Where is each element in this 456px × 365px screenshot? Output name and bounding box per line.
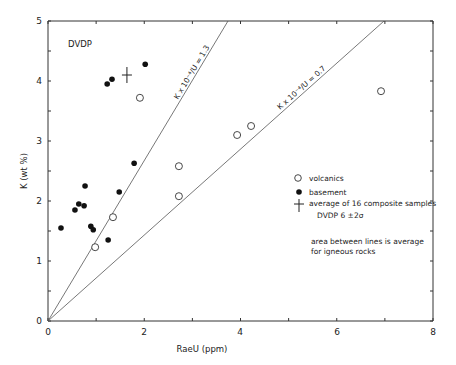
basement-point	[81, 203, 87, 209]
basement-point	[82, 183, 88, 189]
reference-lines	[48, 21, 384, 321]
legend: volcanics basement average of 16 composi…	[294, 174, 436, 220]
volcanics-point	[248, 123, 255, 130]
note-line-2: for igneous rocks	[311, 247, 376, 256]
basement-point	[109, 76, 115, 82]
legend-average: average of 16 composite samples	[309, 199, 436, 208]
average-cross-point	[122, 67, 132, 83]
basement-point	[72, 207, 78, 213]
basement-point	[116, 189, 122, 195]
basement-point	[76, 201, 82, 207]
open-circle-icon	[295, 175, 302, 182]
basement-point	[142, 61, 148, 67]
volcanics-point	[92, 244, 99, 251]
x-axis-label: RaeU (ppm)	[177, 344, 228, 354]
x-tick-labels: 0 2 4 6 8	[45, 327, 436, 337]
x-tick-label: 8	[430, 327, 436, 337]
volcanics-point	[175, 193, 182, 200]
basement-point	[131, 160, 137, 166]
volcanics-point	[109, 214, 116, 221]
ratio-line-0-7-label: K x 10⁻⁴/U = 0.7	[275, 64, 327, 112]
y-axis-label: K (wt %)	[19, 153, 29, 189]
x-tick-label: 0	[45, 327, 51, 337]
y-tick-label: 5	[36, 16, 42, 26]
y-tick-label: 4	[36, 76, 42, 86]
legend-sigma-note: DVDP 6 ±2σ	[317, 211, 364, 220]
x-tick-label: 2	[141, 327, 147, 337]
legend-volcanics: volcanics	[309, 174, 344, 183]
volcanics-point	[234, 132, 241, 139]
note-line-1: area between lines is average	[311, 237, 424, 246]
volcanics-point	[136, 94, 143, 101]
volcanics-point	[175, 163, 182, 170]
y-tick-label: 2	[36, 196, 42, 206]
scatter-chart: 0 2 4 6 8 0 1 2 3 4 5 RaeU (ppm) K (wt %…	[0, 0, 456, 365]
y-tick-labels: 0 1 2 3 4 5	[36, 16, 42, 326]
ratio-line-1-3	[48, 21, 228, 321]
x-tick-label: 6	[334, 327, 340, 337]
y-tick-label: 0	[36, 316, 42, 326]
plot-frame	[48, 21, 433, 321]
filled-circle-icon	[296, 189, 302, 195]
x-tick-label: 4	[237, 327, 243, 337]
basement-point	[58, 225, 64, 231]
basement-point	[105, 237, 111, 243]
basement-point	[90, 227, 96, 233]
basement-point	[104, 81, 110, 87]
volcanics-point	[378, 88, 385, 95]
y-tick-label: 1	[36, 256, 42, 266]
axis-ticks	[48, 21, 433, 321]
y-tick-label: 3	[36, 136, 42, 146]
cross-icon	[294, 199, 304, 212]
ratio-line-1-3-label: K x 10⁻⁴/U = 1.3	[172, 43, 212, 101]
legend-basement: basement	[309, 188, 347, 197]
ratio-line-0-7	[48, 21, 384, 321]
chart-title: DVDP	[68, 39, 92, 49]
